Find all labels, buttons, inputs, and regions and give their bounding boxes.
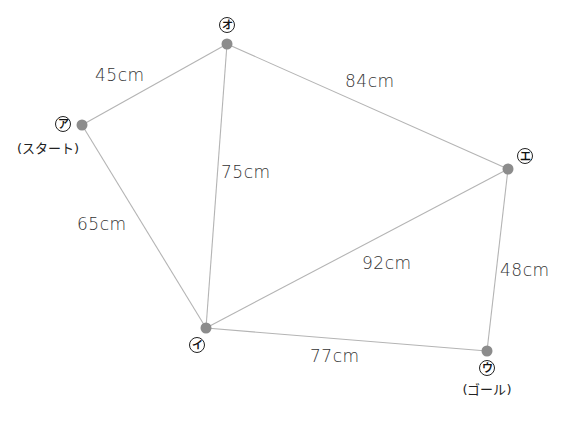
edge-label-o-e: 84cm: [345, 71, 395, 91]
edge-label-a-i: 65cm: [77, 214, 127, 234]
edge-label-a-o: 45cm: [95, 65, 145, 85]
node-label: エ: [520, 150, 531, 163]
node-dot: [222, 39, 233, 50]
node-i: イ: [190, 323, 212, 353]
node-label: ア: [58, 118, 69, 131]
edge-label-i-e: 92cm: [362, 253, 412, 273]
node-dot: [77, 120, 88, 131]
node-label: オ: [222, 19, 233, 32]
node-role-label: (スタート): [17, 141, 79, 156]
node-dot: [482, 346, 493, 357]
node-badge: イ: [190, 338, 205, 353]
edge-label-e-u: 48cm: [500, 260, 550, 280]
edge-label-o-i: 75cm: [221, 162, 271, 182]
node-role-label: (ゴール): [462, 382, 511, 397]
edge-labels-layer: 45cm84cm75cm65cm92cm48cm77cm: [77, 65, 550, 366]
node-dot: [201, 323, 212, 334]
node-badge: ア: [56, 117, 71, 132]
edge-o-e: [227, 44, 508, 169]
node-e: エ: [503, 149, 533, 175]
node-badge: ウ: [480, 361, 495, 376]
node-dot: [503, 164, 514, 175]
route-diagram: 45cm84cm75cm65cm92cm48cm77cm ア(スタート)イウ(ゴ…: [0, 0, 573, 422]
edge-i-e: [206, 169, 508, 328]
node-o: オ: [220, 18, 235, 50]
edge-o-i: [206, 44, 227, 328]
node-u: ウ(ゴール): [462, 346, 511, 398]
node-badge: エ: [518, 149, 533, 164]
node-label: イ: [192, 339, 203, 352]
node-a: ア(スタート): [17, 117, 88, 157]
node-badge: オ: [220, 18, 235, 33]
edges-layer: [82, 44, 508, 351]
node-label: ウ: [482, 362, 493, 375]
edge-label-i-u: 77cm: [310, 346, 360, 366]
